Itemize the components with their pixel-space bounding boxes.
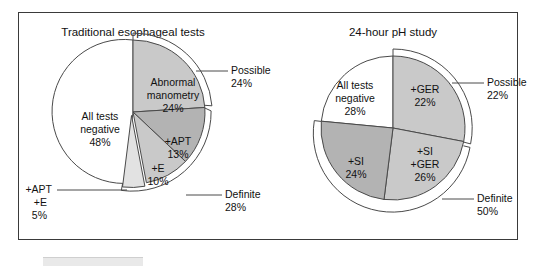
left-label-abnormal-manometry-l1: Abnormal	[151, 76, 196, 88]
left-label-apt-l1: +APT	[165, 135, 192, 147]
right-bracket-definite-label: Definite	[477, 192, 513, 204]
right-pie-chart: 24-hour pH study Possible 22% Definite 5…	[313, 26, 527, 217]
left-label-apt-e-l1: +APT	[25, 183, 52, 195]
right-label-all-negative-l3: 28%	[344, 105, 365, 117]
right-label-all-negative-l1: All tests	[337, 79, 374, 91]
figure-panel: Traditional esophageal tests Possible 24…	[0, 0, 537, 268]
left-bracket-definite-value: 28%	[225, 201, 246, 213]
right-label-si-l1: +SI	[348, 155, 364, 167]
left-label-e-l1: +E	[151, 162, 164, 174]
right-label-all-negative-l2: negative	[335, 92, 375, 104]
left-label-apt-e-l2: +E	[34, 196, 47, 208]
right-bracket-definite-value: 50%	[477, 205, 498, 217]
right-label-ger-l1: +GER	[411, 83, 440, 95]
right-label-si-ger-l2: +GER	[411, 158, 440, 170]
right-bracket-possible-value: 22%	[487, 89, 508, 101]
left-label-apt-e-l3: 5%	[32, 209, 47, 221]
left-label-all-negative-l1: All tests	[82, 110, 119, 122]
left-label-abnormal-manometry-l2: manometry	[147, 89, 200, 101]
pie-charts-svg: Traditional esophageal tests Possible 24…	[0, 0, 537, 268]
left-label-apt-l2: 13%	[167, 148, 188, 160]
left-label-e-l2: 10%	[147, 175, 168, 187]
right-label-si-ger-l1: +SI	[417, 145, 433, 157]
right-bracket-possible-label: Possible	[487, 76, 527, 88]
left-bracket-definite-label: Definite	[225, 188, 261, 200]
left-label-abnormal-manometry-l3: 24%	[162, 102, 183, 114]
right-label-ger-l2: 22%	[414, 96, 435, 108]
left-label-all-negative-l3: 48%	[89, 136, 110, 148]
right-label-si-l2: 24%	[345, 168, 366, 180]
left-bracket-possible-value: 24%	[231, 77, 252, 89]
left-pie-chart: Traditional esophageal tests Possible 24…	[25, 26, 270, 221]
right-chart-title: 24-hour pH study	[349, 26, 437, 38]
left-label-all-negative-l2: negative	[80, 123, 120, 135]
left-bracket-possible-label: Possible	[231, 64, 271, 76]
right-label-si-ger-l3: 26%	[414, 171, 435, 183]
